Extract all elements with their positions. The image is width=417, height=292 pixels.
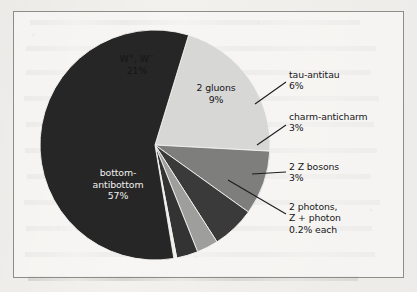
callout-label-charm-anticharm-percent: 3% (289, 122, 304, 133)
callout-label-charm-anticharm: charm-anticharm 3% (289, 111, 368, 134)
callout-label-tau-antitau-name: tau-antitau (289, 69, 340, 80)
slice-label-gluon-pair-line1: 2 gluons (196, 82, 235, 93)
slice-label-bottom-antibottom-percent: 57% (108, 190, 129, 201)
callout-label-charm-anticharm-name: charm-anticharm (289, 111, 368, 122)
callout-label-tau-antitau-percent: 6% (289, 80, 304, 91)
callout-label-tau-antitau: tau-antitau 6% (289, 69, 340, 92)
callout-label-z-boson-pair: 2 Z bosons 3% (289, 161, 339, 184)
slice-label-gluon-pair: 2 gluons 9% (183, 82, 249, 105)
slice-label-w-boson-pair-percent: 21% (127, 65, 148, 76)
slice-label-bottom-antibottom-line2: antibottom (93, 179, 144, 190)
higgs-decay-pie-chart (0, 0, 417, 292)
slice-label-w-boson-pair: W+, W− 21% (95, 53, 179, 76)
callout-label-z-boson-pair-name: 2 Z bosons (289, 161, 339, 172)
callout-label-photon-pair-percent: 0.2% each (289, 224, 337, 235)
callout-label-photon-pair-line2: Z + photon (289, 212, 341, 223)
callout-label-photon-pair-and-z-photon: 2 photons, Z + photon 0.2% each (289, 201, 341, 235)
slice-label-gluon-pair-percent: 9% (209, 94, 224, 105)
slice-label-bottom-antibottom: bottom- antibottom 57% (70, 167, 166, 202)
callout-label-photon-pair-line1: 2 photons, (289, 201, 337, 212)
slice-label-bottom-antibottom-line1: bottom- (100, 167, 137, 178)
callout-label-z-boson-pair-percent: 3% (289, 172, 304, 183)
leader-line-tau-antitau (255, 82, 286, 104)
slice-label-w-boson-pair-line1: W+, W− (120, 53, 155, 64)
